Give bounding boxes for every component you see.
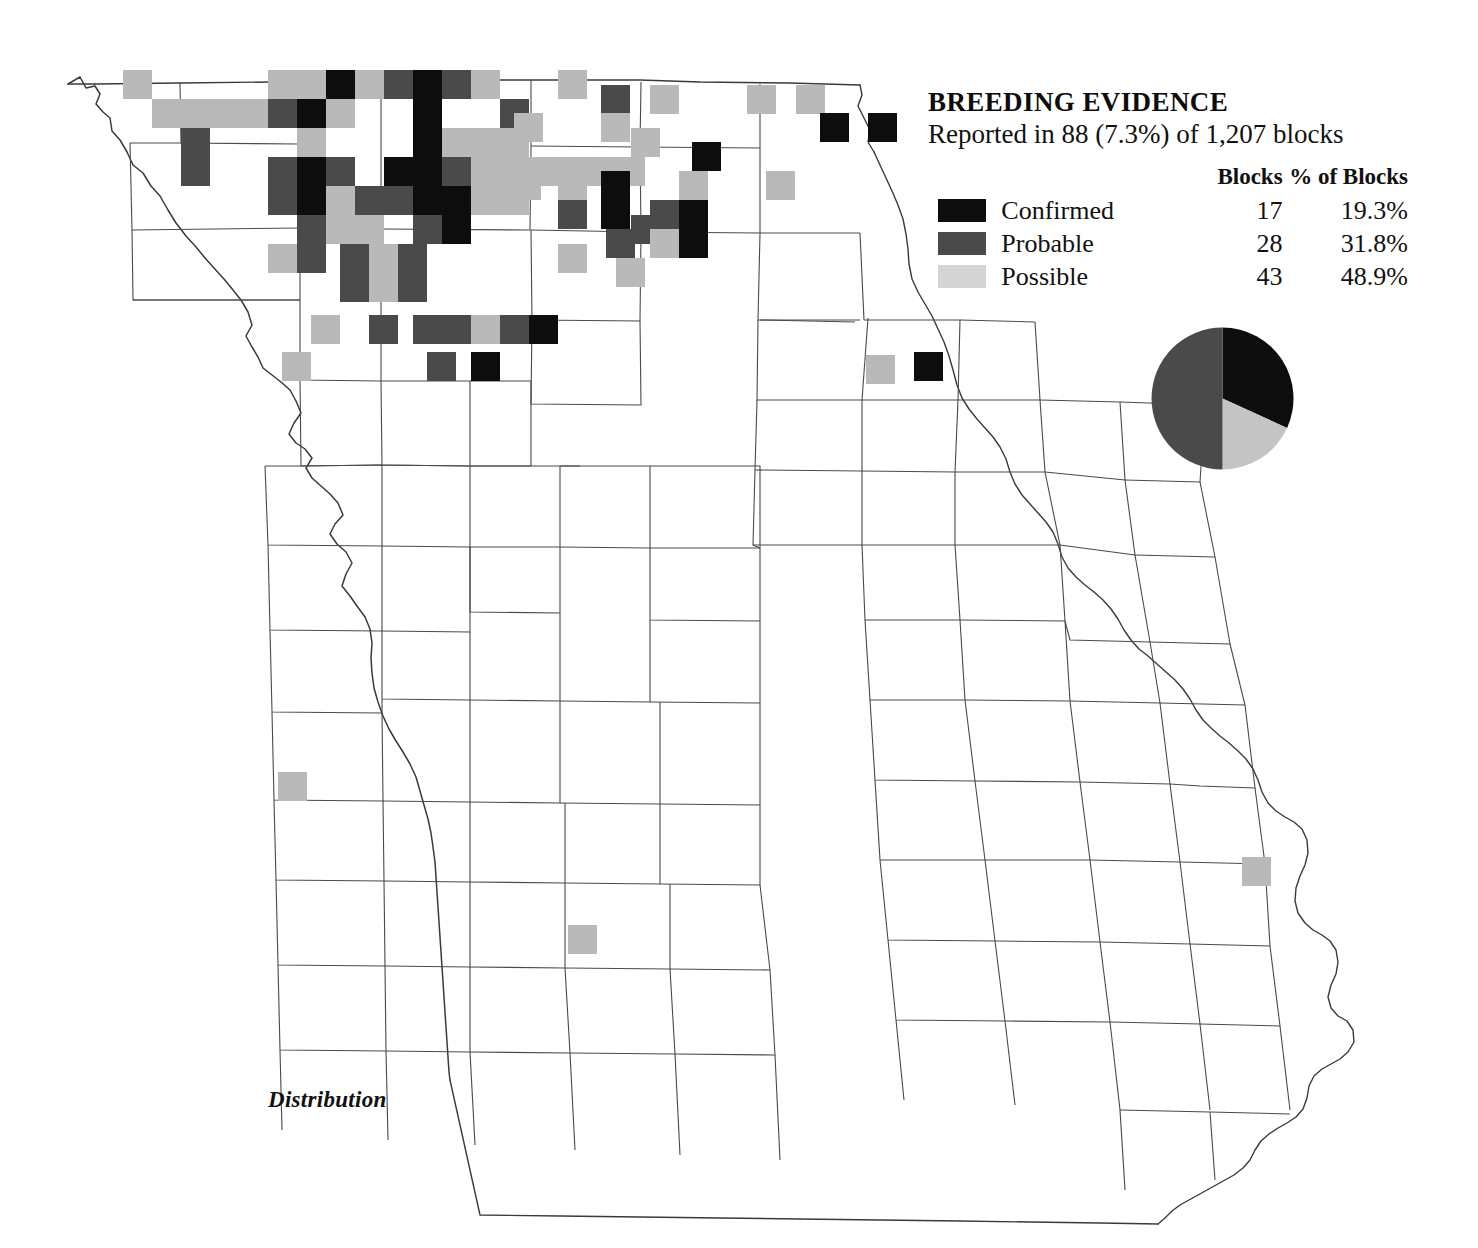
map-block-confirmed: [384, 157, 413, 186]
distribution-caption: Distribution: [268, 1087, 387, 1113]
map-block-probable: [606, 229, 635, 258]
legend-title: BREEDING EVIDENCE: [928, 88, 1408, 116]
map-block-confirmed: [297, 157, 326, 186]
map-block-confirmed: [413, 186, 442, 215]
swatch-confirmed-icon: [938, 199, 986, 222]
map-block-confirmed: [413, 99, 442, 128]
legend-label-confirmed: Confirmed: [1001, 194, 1186, 227]
map-block-probable: [326, 157, 355, 186]
map-block-possible: [558, 157, 587, 186]
map-block-possible: [311, 315, 340, 344]
map-block-probable: [268, 186, 297, 215]
legend-subtitle: Reported in 88 (7.3%) of 1,207 blocks: [928, 118, 1408, 152]
legend-swatch-cell: [938, 194, 1001, 227]
legend-table: Blocks % of Blocks Confirmed 17 19.3% Pr…: [938, 162, 1408, 293]
map-block-possible: [369, 244, 398, 273]
map-block-possible: [866, 355, 895, 384]
map-block-probable: [558, 200, 587, 229]
swatch-possible-icon: [938, 265, 986, 288]
legend-percent-possible: 48.9%: [1283, 260, 1408, 293]
map-block-possible: [631, 128, 660, 157]
map-block-possible: [471, 315, 500, 344]
map-block-confirmed: [679, 200, 708, 229]
map-block-possible: [239, 99, 268, 128]
map-block-confirmed: [820, 113, 849, 142]
map-block-probable: [268, 99, 297, 128]
map-block-possible: [471, 157, 500, 186]
map-block-probable: [500, 315, 529, 344]
map-block-possible: [326, 186, 355, 215]
map-block-probable: [340, 244, 369, 273]
map-block-probable: [384, 186, 413, 215]
map-block-confirmed: [413, 128, 442, 157]
map-block-possible: [747, 85, 776, 114]
map-block-probable: [268, 157, 297, 186]
map-block-probable: [427, 352, 456, 381]
swatch-probable-icon: [938, 232, 986, 255]
map-block-possible: [297, 70, 326, 99]
legend-row-confirmed: Confirmed 17 19.3%: [938, 194, 1408, 227]
legend-label-possible: Possible: [1001, 260, 1186, 293]
map-block-confirmed: [529, 315, 558, 344]
map-block-possible: [355, 70, 384, 99]
map-block-probable: [181, 128, 210, 157]
legend-panel: BREEDING EVIDENCE Reported in 88 (7.3%) …: [928, 88, 1408, 293]
map-block-possible: [1242, 857, 1271, 886]
map-block-confirmed: [326, 70, 355, 99]
map-block-probable: [398, 273, 427, 302]
map-block-probable: [369, 315, 398, 344]
legend-label-probable: Probable: [1001, 227, 1186, 260]
legend-row-possible: Possible 43 48.9%: [938, 260, 1408, 293]
map-block-possible: [369, 273, 398, 302]
map-block-probable: [181, 157, 210, 186]
map-block-probable: [398, 244, 427, 273]
map-block-probable: [442, 315, 471, 344]
map-block-possible: [766, 171, 795, 200]
map-block-possible: [282, 352, 311, 381]
map-block-confirmed: [868, 113, 897, 142]
map-block-confirmed: [601, 200, 630, 229]
map-block-possible: [278, 772, 307, 801]
map-block-possible: [650, 229, 679, 258]
map-block-possible: [568, 925, 597, 954]
map-block-confirmed: [442, 215, 471, 244]
map-block-confirmed: [601, 171, 630, 200]
breeding-evidence-pie-chart: [1151, 327, 1294, 470]
map-block-possible: [616, 258, 645, 287]
legend-swatch-cell: [938, 227, 1001, 260]
map-block-possible: [297, 128, 326, 157]
map-block-possible: [558, 244, 587, 273]
map-block-possible: [601, 113, 630, 142]
legend-header-category: [1001, 162, 1186, 193]
map-block-confirmed: [471, 352, 500, 381]
map-block-probable: [340, 273, 369, 302]
map-block-confirmed: [914, 352, 943, 381]
map-block-possible: [355, 215, 384, 244]
map-block-probable: [442, 157, 471, 186]
map-block-possible: [326, 99, 355, 128]
map-block-confirmed: [413, 157, 442, 186]
map-block-confirmed: [413, 70, 442, 99]
map-block-possible: [558, 70, 587, 99]
map-block-possible: [471, 186, 500, 215]
map-block-probable: [297, 215, 326, 244]
legend-header-row: Blocks % of Blocks: [938, 162, 1408, 193]
map-block-confirmed: [297, 99, 326, 128]
pie-svg: [1151, 327, 1294, 470]
legend-header-blocks: Blocks: [1186, 162, 1283, 193]
map-block-possible: [650, 85, 679, 114]
map-block-possible: [268, 70, 297, 99]
map-block-confirmed: [297, 186, 326, 215]
map-block-probable: [355, 186, 384, 215]
legend-swatch-cell: [938, 260, 1001, 293]
map-block-confirmed: [692, 142, 721, 171]
legend-blocks-confirmed: 17: [1186, 194, 1283, 227]
map-block-probable: [442, 70, 471, 99]
map-block-possible: [471, 70, 500, 99]
map-block-possible: [471, 128, 500, 157]
map-block-possible: [123, 70, 152, 99]
map-block-probable: [297, 244, 326, 273]
map-block-probable: [384, 70, 413, 99]
legend-header-swatch: [938, 162, 1001, 193]
map-block-possible: [210, 99, 239, 128]
